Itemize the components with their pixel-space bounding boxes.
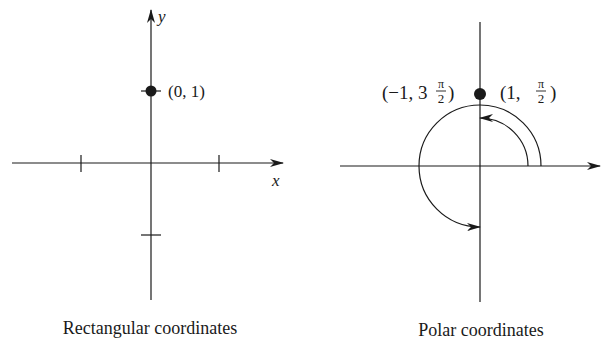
- polar-left-label-open: (−1, 3: [382, 82, 428, 104]
- polar-right-label-close: ): [550, 82, 556, 104]
- polar-label-neg1-3pi-over-2: (−1, 3 π 2 ): [382, 77, 454, 106]
- rectangular-panel: y x (0, 1) Rectangular coordinates: [12, 7, 283, 338]
- rect-point-0-1: [146, 86, 157, 97]
- coordinate-systems-figure: y x (0, 1) Rectangular coordinates (−1, …: [0, 0, 601, 346]
- polar-panel: (−1, 3 π 2 ) (1, π 2 ) Polar coordinates: [340, 22, 600, 340]
- rect-caption: Rectangular coordinates: [63, 318, 237, 338]
- polar-right-label-open: (1,: [500, 82, 521, 104]
- polar-left-label-num: π: [438, 77, 444, 91]
- rect-y-axis-label: y: [156, 7, 166, 26]
- polar-caption: Polar coordinates: [418, 320, 543, 340]
- polar-right-label-den: 2: [538, 91, 545, 106]
- polar-left-label-close: ): [448, 82, 454, 104]
- polar-right-label-num: π: [538, 77, 544, 91]
- polar-label-1-pi-over-2: (1, π 2 ): [500, 77, 556, 106]
- rect-x-axis-label: x: [271, 171, 280, 190]
- polar-left-label-den: 2: [438, 91, 445, 106]
- polar-point: [474, 88, 486, 100]
- polar-inner-arc-pi-over-2: [480, 118, 528, 166]
- rect-point-label: (0, 1): [168, 82, 205, 101]
